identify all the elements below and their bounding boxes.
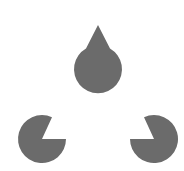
- kanizsa-figure: [0, 0, 184, 171]
